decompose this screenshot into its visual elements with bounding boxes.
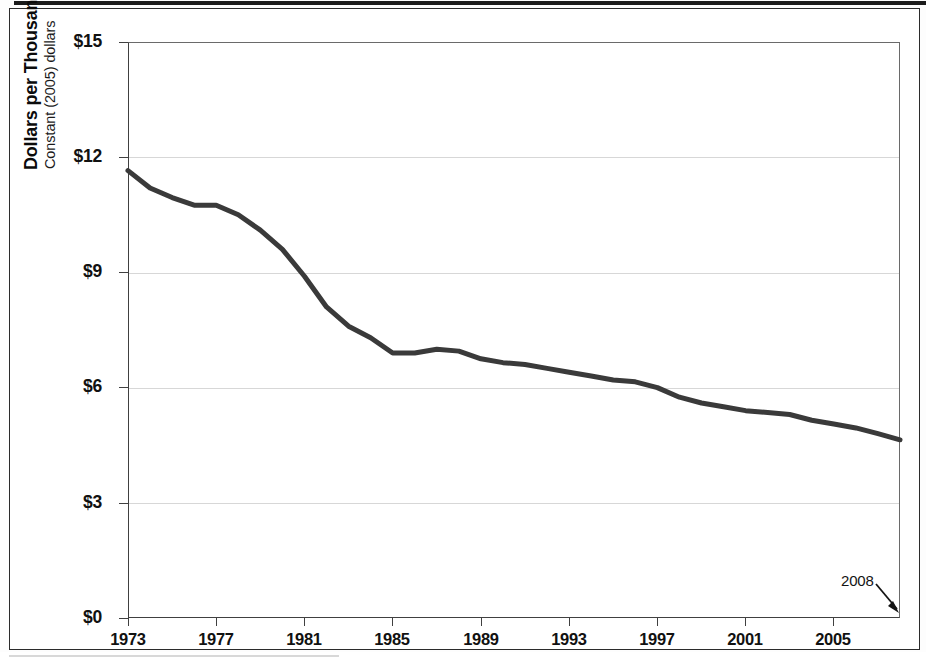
y-tick-mark-3	[119, 503, 128, 504]
x-tick-label-1981: 1981	[286, 630, 322, 649]
x-tick-mark-1993	[569, 618, 570, 626]
y-axis-title-group: Dollars per Thousand Btu Constant (2005)…	[34, 0, 94, 671]
y-tick-label-6: $6	[83, 376, 102, 397]
gridline-9	[129, 273, 899, 274]
x-tick-label-1973: 1973	[110, 630, 146, 649]
gridline-12	[129, 157, 899, 158]
y-tick-label-0: $0	[83, 607, 102, 628]
y-axis-title: Dollars per Thousand Btu	[22, 0, 41, 170]
y-tick-mark-9	[119, 272, 128, 273]
y-tick-mark-15	[119, 42, 128, 43]
y-tick-label-12: $12	[73, 146, 102, 167]
x-tick-label-1977: 1977	[198, 630, 234, 649]
x-tick-mark-1989	[481, 618, 482, 626]
x-tick-mark-1973	[128, 618, 129, 626]
y-tick-label-3: $3	[83, 492, 102, 513]
gridline-3	[129, 503, 899, 504]
scanned-page: Dollars per Thousand Btu Constant (2005)…	[0, 0, 926, 671]
x-tick-mark-2005	[833, 618, 834, 626]
x-tick-mark-2001	[745, 618, 746, 626]
x-tick-label-1989: 1989	[463, 630, 499, 649]
y-tick-label-15: $15	[73, 31, 102, 52]
line-chart: Dollars per Thousand Btu Constant (2005)…	[0, 0, 926, 671]
x-tick-label-2005: 2005	[815, 630, 851, 649]
y-tick-mark-0	[119, 618, 128, 619]
y-tick-label-9: $9	[83, 261, 102, 282]
plot-area	[128, 42, 900, 618]
x-tick-mark-1985	[392, 618, 393, 626]
x-tick-mark-1977	[216, 618, 217, 626]
x-tick-label-1985: 1985	[374, 630, 410, 649]
x-tick-mark-1997	[657, 618, 658, 626]
gridline-6	[129, 388, 899, 389]
y-tick-mark-6	[119, 387, 128, 388]
x-tick-label-1993: 1993	[551, 630, 587, 649]
x-tick-label-2001: 2001	[727, 630, 763, 649]
x-tick-mark-1981	[304, 618, 305, 626]
x-tick-label-1997: 1997	[639, 630, 675, 649]
annotation-label-2008: 2008	[841, 572, 874, 589]
y-tick-mark-12	[119, 157, 128, 158]
